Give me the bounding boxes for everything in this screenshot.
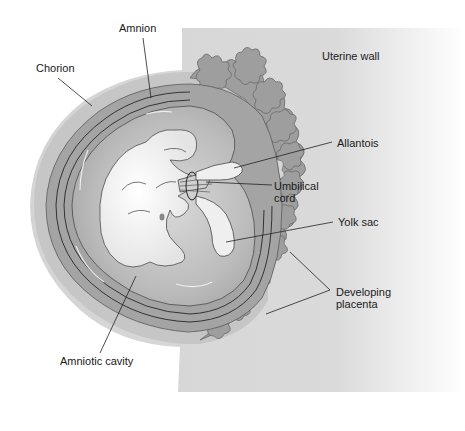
leader-chorion [58,78,92,106]
label-placenta-line2: placenta [336,298,391,310]
label-umbilical-cord: Umbilical cord [274,180,319,204]
label-uterine-wall: Uterine wall [322,50,379,62]
embryo-eye [160,214,165,221]
label-allantois: Allantois [337,137,379,149]
label-placenta-line1: Developing [336,286,391,298]
label-umbilical-line2: cord [274,192,319,204]
label-developing-placenta: Developing placenta [336,286,391,310]
label-amnion: Amnion [119,22,156,34]
label-umbilical-line1: Umbilical [274,180,319,192]
label-yolk-sac: Yolk sac [338,216,379,228]
label-amniotic-cavity: Amniotic cavity [60,355,133,367]
label-chorion: Chorion [36,62,75,74]
diagram-canvas: Amnion Chorion Uterine wall Allantois Um… [0,0,465,431]
